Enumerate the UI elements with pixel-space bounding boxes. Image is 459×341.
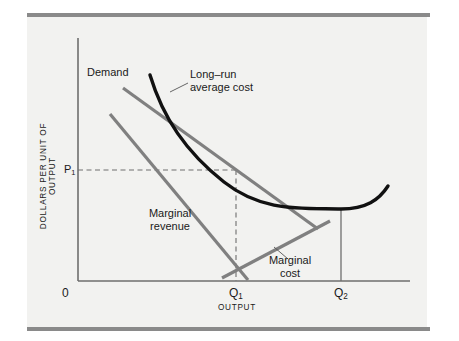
marginal-cost-label-line-1: Marginal bbox=[266, 254, 314, 267]
price-1-subscript: 1 bbox=[71, 168, 75, 177]
q1-tick-label: Q1 bbox=[229, 286, 243, 300]
marginal-cost-label-line-2: cost bbox=[266, 267, 314, 280]
demand-label: Demand bbox=[87, 66, 129, 79]
long-run-average-cost-label: Long–run average cost bbox=[190, 68, 253, 93]
q1-subscript: 1 bbox=[238, 292, 243, 301]
long-run-average-cost-curve bbox=[150, 75, 388, 209]
marginal-revenue-label-line-2: revenue bbox=[146, 220, 194, 233]
q2-tick-label: Q2 bbox=[334, 286, 348, 300]
origin-label: 0 bbox=[62, 286, 69, 300]
marginal-revenue-label: Marginal revenue bbox=[146, 207, 194, 232]
lrac-label-line-1: Long–run bbox=[190, 68, 253, 81]
price-1-tick-label: P1 bbox=[64, 163, 76, 175]
marginal-cost-label: Marginal cost bbox=[266, 254, 314, 279]
x-axis-label: OUTPUT bbox=[218, 303, 256, 312]
figure-page: DOLLARS PER UNIT OF OUTPUT Demand Long–r… bbox=[0, 0, 459, 341]
q1-letter: Q bbox=[229, 286, 238, 300]
lrac-leader-line bbox=[170, 83, 188, 92]
marginal-revenue-curve bbox=[110, 114, 248, 280]
lrac-label-line-2: average cost bbox=[190, 81, 253, 94]
q2-letter: Q bbox=[334, 286, 343, 300]
q2-subscript: 2 bbox=[343, 292, 348, 301]
marginal-revenue-label-line-1: Marginal bbox=[146, 207, 194, 220]
